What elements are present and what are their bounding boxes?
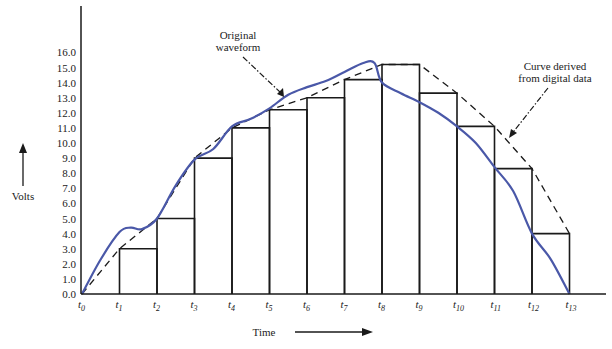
annotation-original-line1: Original xyxy=(220,29,257,41)
sample-bar xyxy=(270,110,308,294)
x-tick-label: t11 xyxy=(491,298,501,313)
y-tick-label: 6.0 xyxy=(62,197,76,209)
x-tick-label: t10 xyxy=(453,298,464,313)
annotation-derived-line2: from digital data xyxy=(518,72,591,84)
sample-bar xyxy=(457,126,495,294)
sample-bar xyxy=(195,158,233,294)
arrow-head-icon xyxy=(509,129,517,138)
x-tick-label: t5 xyxy=(266,298,273,313)
x-tick-label: t6 xyxy=(303,298,310,313)
x-tick-label: t7 xyxy=(341,298,349,313)
sample-bar xyxy=(345,80,383,294)
y-tick-label: 2.0 xyxy=(62,258,76,270)
staircase-samples xyxy=(120,64,570,294)
sample-bar xyxy=(120,249,158,294)
right-arrow-icon xyxy=(362,328,373,336)
x-tick-label: t8 xyxy=(378,298,385,313)
y-tick-label: 8.0 xyxy=(62,167,76,179)
y-axis-tick-labels: 0.01.02.03.04.05.06.07.08.09.010.011.012… xyxy=(57,46,77,300)
sample-bar xyxy=(232,128,270,294)
annotation-derived-line1: Curve derived xyxy=(524,60,587,72)
y-tick-label: 14.0 xyxy=(57,77,77,89)
y-axis-title: Volts xyxy=(12,190,34,202)
sample-bar xyxy=(495,169,533,294)
sampled-waveform-diagram: 0.01.02.03.04.05.06.07.08.09.010.011.012… xyxy=(0,0,612,349)
x-tick-label: t0 xyxy=(78,298,85,313)
sample-bar xyxy=(307,98,345,294)
up-arrow-icon xyxy=(19,143,27,153)
x-tick-label: t1 xyxy=(116,298,123,313)
x-axis-tick-labels: t0t1t2t3t4t5t6t7t8t9t10t11t12t13 xyxy=(78,298,577,313)
x-tick-label: t13 xyxy=(566,298,577,313)
y-tick-label: 11.0 xyxy=(57,122,76,134)
annotation-derived-leader xyxy=(514,88,548,131)
x-tick-label: t3 xyxy=(191,298,198,313)
annotation-original-line2: waveform xyxy=(216,41,261,53)
y-tick-label: 16.0 xyxy=(57,46,77,58)
y-tick-label: 5.0 xyxy=(62,213,76,225)
y-tick-label: 0.0 xyxy=(62,288,76,300)
y-tick-label: 9.0 xyxy=(62,152,76,164)
x-axis-title: Time xyxy=(253,326,276,338)
y-tick-label: 3.0 xyxy=(62,243,76,255)
derived-curve-dashed xyxy=(82,64,570,294)
x-tick-label: t12 xyxy=(528,298,539,313)
x-tick-label: t4 xyxy=(228,298,235,313)
y-tick-label: 1.0 xyxy=(62,273,76,285)
original-waveform-curve xyxy=(82,61,570,294)
y-tick-label: 7.0 xyxy=(62,182,76,194)
y-tick-label: 12.0 xyxy=(57,107,77,119)
sample-bar xyxy=(157,219,195,295)
annotation-original-leader xyxy=(243,57,281,93)
x-tick-label: t9 xyxy=(416,298,423,313)
y-tick-label: 10.0 xyxy=(57,137,77,149)
y-tick-label: 15.0 xyxy=(57,62,77,74)
y-tick-label: 13.0 xyxy=(57,92,77,104)
arrow-head-icon xyxy=(277,88,284,97)
x-tick-label: t2 xyxy=(153,298,160,313)
y-tick-label: 4.0 xyxy=(62,228,76,240)
